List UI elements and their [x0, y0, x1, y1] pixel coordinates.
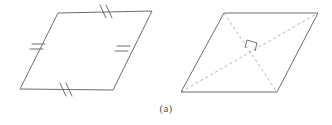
left-edge-tick-marks — [30, 44, 45, 49]
right-edge-tick-marks — [115, 46, 130, 51]
right-angle-marker-icon — [245, 40, 257, 51]
geometry-figure-panel: (a) — [0, 0, 332, 125]
right-rhombus-group — [181, 13, 318, 92]
left-parallelogram-outline — [20, 11, 152, 90]
figure-caption: (a) — [0, 101, 332, 115]
left-parallelogram-group — [20, 5, 152, 96]
